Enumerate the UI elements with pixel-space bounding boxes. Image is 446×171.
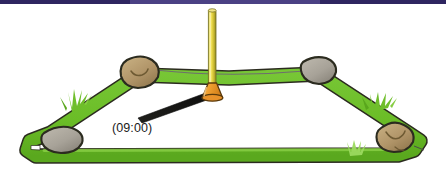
sundial-figure [0, 0, 446, 171]
illustration-canvas: (09:00) [0, 0, 446, 171]
gnomon-base [202, 83, 223, 101]
base-foot [202, 94, 223, 101]
gnomon-pole [208, 9, 216, 94]
pole-shaft [208, 10, 216, 94]
pole-tip [208, 9, 216, 12]
rock-bottom-left [41, 127, 82, 153]
rock-top-left [121, 57, 159, 89]
time-label: (09:00) [112, 121, 152, 135]
rock-top-right [301, 57, 336, 84]
rock-bottom-right [377, 123, 414, 152]
pole-specular [210, 11, 212, 93]
rope-highlight [44, 150, 398, 151]
grass-rope-loop [27, 74, 420, 156]
rope-green-body [27, 74, 420, 156]
rope-knot-notch [31, 146, 40, 151]
